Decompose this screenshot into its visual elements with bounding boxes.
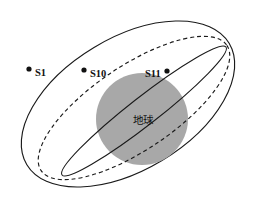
- orbit-diagram-canvas: S1 S10 S11 地球: [0, 0, 258, 209]
- satellite-dot-s1: [26, 66, 31, 71]
- satellite-label-s10: S10: [90, 68, 106, 79]
- earth-label: 地球: [133, 114, 154, 126]
- satellite-dot-s11: [164, 68, 169, 73]
- satellite-label-s11: S11: [145, 68, 161, 79]
- satellite-dot-s10: [81, 67, 86, 72]
- orbit-diagram: S1 S10 S11 地球: [0, 0, 258, 209]
- satellite-label-s1: S1: [35, 67, 46, 78]
